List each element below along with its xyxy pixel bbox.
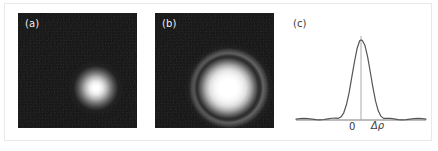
panel-b-noise-background — [155, 13, 274, 128]
panel-b-label: (b) — [162, 18, 176, 29]
x-axis-label: Δρ — [371, 120, 384, 131]
x-tick-label-zero: 0 — [349, 121, 355, 132]
panel-a-image: (a) — [18, 13, 137, 128]
panel-a-noise-background — [18, 13, 137, 128]
plot-svg — [286, 13, 430, 139]
panel-b-image: (b) — [155, 13, 274, 128]
panel-c-plot: (c) 0 Δρ — [286, 13, 430, 139]
figure-container: (a) (b) (c) 0 Δρ — [0, 0, 438, 151]
panel-a-label: (a) — [25, 18, 39, 29]
